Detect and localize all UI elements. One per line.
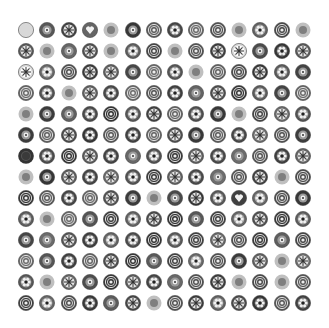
bead-star-pattern [82, 148, 98, 164]
bead-rings-pattern [125, 253, 141, 269]
bead-rings-pattern [210, 127, 226, 143]
bead-rings-pattern [274, 22, 290, 38]
bead-blur-pattern [39, 211, 55, 227]
bead-star-pattern [125, 295, 141, 311]
bead-star-pattern [103, 169, 119, 185]
bead-dot-pattern [295, 127, 311, 143]
bead-flower-pattern [210, 190, 226, 206]
bead-flower-pattern [274, 43, 290, 59]
bead-rings-pattern [167, 106, 183, 122]
bead-dot-pattern [210, 106, 226, 122]
bead-blur-pattern [274, 169, 290, 185]
bead-flower-pattern [103, 148, 119, 164]
bead-dot-pattern [39, 22, 55, 38]
bead-dot-pattern [274, 85, 290, 101]
bead-flower-pattern [210, 295, 226, 311]
bead-rings-pattern [295, 85, 311, 101]
bead-blur-pattern [39, 43, 55, 59]
bead-star-pattern [295, 253, 311, 269]
bead-blur-pattern [167, 43, 183, 59]
bead-rings-pattern [210, 22, 226, 38]
bead-rings-pattern [103, 211, 119, 227]
bead-blur-pattern [146, 190, 162, 206]
bead-rings-pattern [146, 85, 162, 101]
bead-rings-pattern [188, 22, 204, 38]
bead-blur-pattern [146, 295, 162, 311]
bead-blur-pattern [231, 22, 247, 38]
bead-flower-pattern [125, 211, 141, 227]
bead-rings-pattern [103, 127, 119, 143]
bead-star-pattern [82, 43, 98, 59]
bead-blur-pattern [39, 274, 55, 290]
bead-blur-pattern [231, 274, 247, 290]
bead-blur-pattern [274, 274, 290, 290]
bead-flower-pattern [188, 169, 204, 185]
bead-dot-pattern [167, 190, 183, 206]
bead-dot-pattern [188, 85, 204, 101]
bead-rings-pattern [274, 127, 290, 143]
bead-rings-pattern [167, 211, 183, 227]
bead-blur-pattern [61, 85, 77, 101]
bead-dot-pattern [295, 190, 311, 206]
bead-flower-pattern [210, 148, 226, 164]
bead-star-pattern [103, 253, 119, 269]
bead-blur-pattern [18, 106, 34, 122]
bead-flower-pattern [125, 232, 141, 248]
bead-rings-pattern [82, 190, 98, 206]
bead-flower-pattern [39, 295, 55, 311]
bead-dot-pattern [146, 253, 162, 269]
bead-ring-pattern [18, 22, 34, 38]
bead-dot-pattern [125, 148, 141, 164]
bead-rings-pattern [18, 295, 34, 311]
bead-star-pattern [82, 64, 98, 80]
bead-star-pattern [61, 274, 77, 290]
bead-dot-pattern [39, 106, 55, 122]
bead-flower-pattern [82, 169, 98, 185]
bead-star-pattern [61, 127, 77, 143]
bead-flower-pattern [125, 43, 141, 59]
bead-dot-pattern [252, 43, 268, 59]
bead-rings-pattern [210, 211, 226, 227]
bead-rings-pattern [167, 148, 183, 164]
bead-rings-pattern [146, 22, 162, 38]
bead-flower-pattern [252, 22, 268, 38]
bead-flower-pattern [274, 64, 290, 80]
bead-dot-pattern [18, 232, 34, 248]
bead-flower-pattern [252, 190, 268, 206]
bead-dot-pattern [125, 190, 141, 206]
bead-dot-pattern [39, 232, 55, 248]
bead-star-pattern [231, 43, 247, 59]
bead-flower-pattern [146, 274, 162, 290]
bead-flower-pattern [295, 211, 311, 227]
bead-rings-pattern [146, 64, 162, 80]
bead-star-pattern [252, 211, 268, 227]
bead-flower-pattern [82, 106, 98, 122]
bead-flower-pattern [82, 295, 98, 311]
bead-rings-pattern [167, 295, 183, 311]
bead-blur-pattern [231, 106, 247, 122]
bead-flower-pattern [39, 148, 55, 164]
bead-rings-pattern [125, 85, 141, 101]
bead-star-pattern [210, 85, 226, 101]
bead-flower-pattern [188, 253, 204, 269]
bead-star-pattern [252, 127, 268, 143]
bead-rings-pattern [18, 85, 34, 101]
bead-blur-pattern [274, 253, 290, 269]
bead-flower-pattern [125, 169, 141, 185]
bead-rings-pattern [231, 85, 247, 101]
bead-flower-pattern [18, 274, 34, 290]
bead-star-pattern [295, 148, 311, 164]
bead-flower-pattern [167, 232, 183, 248]
bead-dot-pattern [231, 148, 247, 164]
bead-rings-pattern [252, 148, 268, 164]
bead-flower-pattern [125, 106, 141, 122]
bead-rings-pattern [295, 169, 311, 185]
bead-rings-pattern [18, 253, 34, 269]
bead-dot-pattern [61, 43, 77, 59]
bead-dot-pattern [231, 253, 247, 269]
bead-star-pattern [18, 64, 34, 80]
bead-rings-pattern [231, 232, 247, 248]
bead-star-pattern [61, 22, 77, 38]
bead-star-pattern [125, 274, 141, 290]
bead-flower-pattern [231, 211, 247, 227]
